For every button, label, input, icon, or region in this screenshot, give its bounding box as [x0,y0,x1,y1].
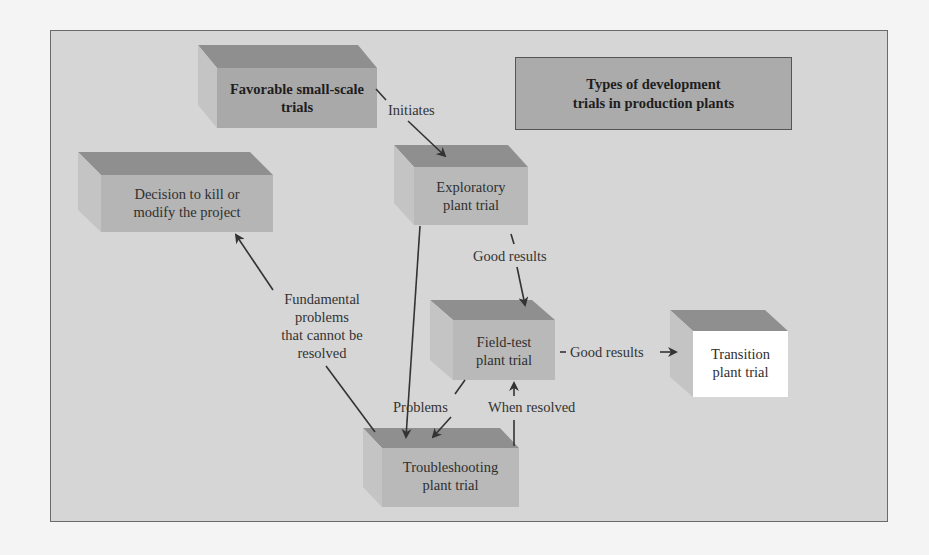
edge-label-good-results-1: Good results [473,247,547,265]
troubleshooting-line-2: plant trial [382,476,519,494]
exploratory-line-1: Exploratory [414,178,528,196]
exploratory-line-2: plant trial [414,196,528,214]
edge-label-problems: Problems [393,398,448,416]
edge-label-when-resolved: When resolved [488,398,575,416]
troubleshooting-line-1: Troubleshooting [382,458,519,476]
decision-line-2: modify the project [101,203,273,221]
decision-line-1: Decision to kill or [101,185,273,203]
title-line-2: trials in production plants [573,94,734,113]
node-troubleshooting-label: Troubleshooting plant trial [382,458,519,494]
transition-line-1: Transition [693,345,788,363]
edge-label-good-results-2: Good results [570,343,644,361]
edge-label-initiates: Initiates [388,101,435,119]
favorable-line-1: Favorable small-scale [217,80,377,98]
node-field-test-label: Field-test plant trial [453,333,555,369]
field-test-line-2: plant trial [453,351,555,369]
field-test-line-1: Field-test [453,333,555,351]
fundamental-line-3: that cannot be [262,326,382,344]
fundamental-line-4: resolved [262,344,382,362]
node-decision-label: Decision to kill or modify the project [101,185,273,221]
edge-label-fundamental-problems: Fundamental problems that cannot be reso… [262,290,382,362]
favorable-line-2: trials [217,98,377,116]
node-transition-label: Transition plant trial [693,345,788,381]
fundamental-line-1: Fundamental [262,290,382,308]
transition-line-2: plant trial [693,363,788,381]
title-box: Types of development trials in productio… [515,57,792,130]
node-favorable-label: Favorable small-scale trials [217,80,377,116]
node-exploratory-label: Exploratory plant trial [414,178,528,214]
fundamental-line-2: problems [262,308,382,326]
title-line-1: Types of development [586,75,720,94]
arrows [236,89,676,446]
